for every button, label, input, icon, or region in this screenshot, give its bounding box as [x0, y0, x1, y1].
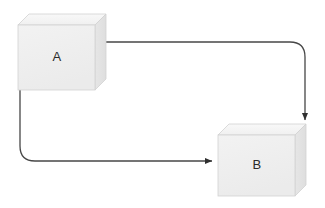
node-a[interactable]: A — [18, 14, 106, 90]
diagram-svg: A B — [0, 0, 325, 208]
node-b[interactable]: B — [218, 124, 306, 196]
node-a-top-face — [18, 14, 106, 25]
node-b-label: B — [253, 157, 262, 172]
edge-a-bottom-to-b-left — [20, 90, 212, 161]
diagram-canvas: A B — [0, 0, 325, 208]
node-b-side-face — [295, 124, 306, 196]
node-a-label: A — [53, 49, 62, 64]
node-a-side-face — [95, 14, 106, 90]
edge-a-top-to-b-top — [95, 42, 305, 120]
node-b-top-face — [218, 124, 306, 135]
